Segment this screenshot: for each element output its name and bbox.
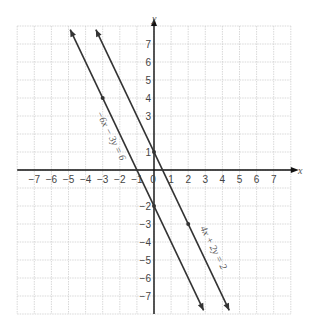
svg-text:3: 3 xyxy=(145,111,151,122)
svg-text:−4: −4 xyxy=(80,174,92,185)
x-axis-label: x xyxy=(297,165,303,176)
svg-text:4: 4 xyxy=(145,93,151,104)
svg-text:−3: −3 xyxy=(140,219,152,230)
svg-text:7: 7 xyxy=(271,174,277,185)
svg-text:5: 5 xyxy=(237,174,243,185)
svg-text:−6: −6 xyxy=(46,174,58,185)
svg-text:−2: −2 xyxy=(114,174,126,185)
svg-text:−7: −7 xyxy=(29,174,41,185)
svg-text:−6: −6 xyxy=(140,273,152,284)
svg-text:6: 6 xyxy=(145,57,151,68)
svg-text:3: 3 xyxy=(203,174,209,185)
equation-label-line2: 4x + 2y = 2 xyxy=(198,224,229,271)
svg-text:6: 6 xyxy=(254,174,260,185)
svg-text:−5: −5 xyxy=(63,174,75,185)
svg-text:5: 5 xyxy=(145,75,151,86)
svg-text:−3: −3 xyxy=(97,174,109,185)
svg-text:1: 1 xyxy=(145,147,151,158)
svg-text:−2: −2 xyxy=(140,201,152,212)
svg-text:0: 0 xyxy=(150,174,156,185)
svg-text:4: 4 xyxy=(220,174,226,185)
svg-text:2: 2 xyxy=(185,174,191,185)
y-axis-label: y xyxy=(151,13,157,24)
coordinate-plane: −7−6−5−4−3−2−101234567765431−2−3−4−5−6−7… xyxy=(0,0,316,330)
svg-text:−4: −4 xyxy=(140,237,152,248)
svg-text:−7: −7 xyxy=(140,291,152,302)
svg-text:7: 7 xyxy=(145,39,151,50)
svg-text:−5: −5 xyxy=(140,255,152,266)
